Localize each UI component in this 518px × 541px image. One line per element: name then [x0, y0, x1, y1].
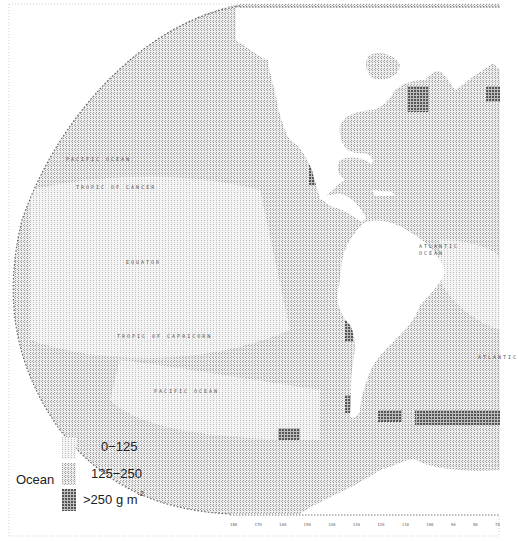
- legend-label-low: 0−125: [101, 439, 138, 454]
- legend-label-high: >250 g m-2: [83, 492, 144, 507]
- legend: Ocean 0−125 125−250 >250 g m-2: [0, 430, 170, 530]
- ocean-label: TROPIC OF CAPRICORN: [117, 333, 212, 339]
- axis-tick: 160: [279, 522, 286, 527]
- high-patch-labrador: [407, 86, 429, 112]
- ocean-label: OCEAN: [419, 250, 444, 256]
- ocean-label: ATLANTIC: [478, 354, 518, 360]
- axis-tick: 130: [353, 522, 360, 527]
- axis-tick: 110: [402, 522, 409, 527]
- axis-tick: 70: [495, 522, 500, 527]
- axis-tick: 170: [255, 522, 262, 527]
- ocean-label: PACIFIC OCEAN: [66, 156, 131, 162]
- axis-tick: 140: [328, 522, 335, 527]
- legend-unit-superscript: -2: [138, 490, 144, 497]
- high-patch-south-atlantic: [415, 410, 500, 425]
- ocean-label: TROPIC OF CANCER: [76, 184, 156, 190]
- axis-tick: 80: [473, 522, 478, 527]
- ocean-label: EQUATOR: [126, 259, 161, 265]
- legend-label-high-text: >250 g m: [83, 492, 138, 507]
- legend-title: Ocean: [16, 472, 54, 487]
- legend-swatch-low: [62, 437, 76, 459]
- axis-tick: 180: [230, 522, 237, 527]
- axis-tick: 100: [426, 522, 433, 527]
- legend-swatch-medium: [62, 463, 76, 485]
- axis-tick: 150: [304, 522, 311, 527]
- high-patch-south-pacific: [278, 428, 300, 440]
- ocean-label: ATLANTIC: [419, 243, 459, 249]
- legend-swatch-high: [62, 489, 76, 511]
- legend-label-medium: 125−250: [91, 466, 142, 481]
- axis-tick: 120: [377, 522, 384, 527]
- ocean-label: PACIFIC OCEAN: [154, 388, 219, 394]
- bottom-axis-ticks: 180 170 160 150 140 130 120 110 100 90 8…: [230, 522, 500, 527]
- axis-tick: 90: [451, 522, 456, 527]
- high-patch-patagonia: [378, 410, 402, 422]
- high-patch-north-atlantic: [486, 86, 500, 102]
